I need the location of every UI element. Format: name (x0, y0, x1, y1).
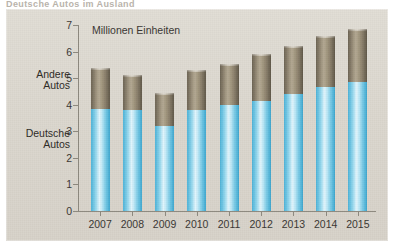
x-axis-tick (229, 211, 230, 216)
chart-plot-area: Millionen Einheiten 01234567 Andere Auto… (6, 9, 388, 241)
bar-group[interactable] (348, 9, 367, 211)
y-axis-tick (73, 25, 79, 26)
bar-top-highlight (91, 68, 110, 70)
bar-segment-german[interactable] (155, 126, 174, 211)
bar-group[interactable] (155, 9, 174, 211)
top-headline-remnant: Deutsche Autos im Ausland (6, 0, 206, 7)
bar-segment-other[interactable] (91, 68, 110, 109)
bar-group[interactable] (220, 9, 239, 211)
y-axis-tick (73, 52, 79, 53)
bar-top-highlight (155, 93, 174, 95)
bar-segment-other[interactable] (220, 64, 239, 105)
y-axis-tick (73, 105, 79, 106)
series-label-german: Deutsche Autos (8, 128, 70, 150)
bar-top-highlight (316, 36, 335, 38)
x-axis-line (78, 211, 376, 212)
series-label-german-line2: Autos (8, 139, 70, 150)
bar-group[interactable] (91, 9, 110, 211)
y-axis-tick (73, 78, 79, 79)
bar-segment-other[interactable] (348, 29, 367, 82)
bar-segment-other[interactable] (187, 70, 206, 110)
bar-segment-german[interactable] (284, 94, 303, 211)
bar-segment-other[interactable] (284, 46, 303, 94)
bar-segment-german[interactable] (123, 110, 142, 211)
bar-group[interactable] (187, 9, 206, 211)
bar-group[interactable] (252, 9, 271, 211)
chart-panel: Millionen Einheiten 01234567 Andere Auto… (6, 9, 388, 241)
bar-group[interactable] (123, 9, 142, 211)
x-axis-tick (293, 211, 294, 216)
bar-top-highlight (284, 46, 303, 48)
y-axis-tick (73, 158, 79, 159)
bar-segment-other[interactable] (155, 93, 174, 126)
bar-top-highlight (348, 29, 367, 31)
x-axis-tick (261, 211, 262, 216)
y-axis-tick (73, 211, 79, 212)
series-label-other-line2: Autos (8, 80, 70, 91)
bar-segment-other[interactable] (316, 36, 335, 88)
x-axis-tick (197, 211, 198, 216)
bar-top-highlight (252, 54, 271, 56)
x-axis-tick (358, 211, 359, 216)
bar-top-highlight (187, 70, 206, 72)
bar-segment-german[interactable] (252, 101, 271, 211)
bar-segment-german[interactable] (187, 110, 206, 211)
bar-segment-german[interactable] (91, 109, 110, 211)
x-axis-tick (100, 211, 101, 216)
series-label-other: Andere Autos (8, 69, 70, 91)
x-axis-tick-label: 2015 (338, 218, 378, 230)
bar-segment-other[interactable] (123, 75, 142, 110)
bar-segment-german[interactable] (316, 87, 335, 211)
bar-segment-german[interactable] (348, 82, 367, 211)
y-axis-tick (73, 184, 79, 185)
y-axis-tick (73, 131, 79, 132)
bar-top-highlight (220, 64, 239, 66)
bar-group[interactable] (284, 9, 303, 211)
x-axis-tick (326, 211, 327, 216)
bar-segment-other[interactable] (252, 54, 271, 101)
x-axis-tick (132, 211, 133, 216)
x-axis-tick (165, 211, 166, 216)
bar-group[interactable] (316, 9, 335, 211)
bar-segment-german[interactable] (220, 105, 239, 211)
series-labels: Andere Autos Deutsche Autos (6, 9, 70, 241)
bar-top-highlight (123, 75, 142, 77)
